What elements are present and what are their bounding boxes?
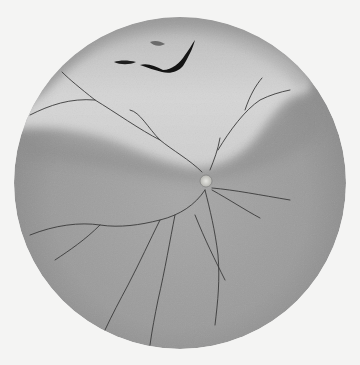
fundus-drawing [0,0,360,365]
optic-disc [200,175,212,187]
fundus-circle [0,0,360,365]
fundus-illustration [0,0,360,365]
